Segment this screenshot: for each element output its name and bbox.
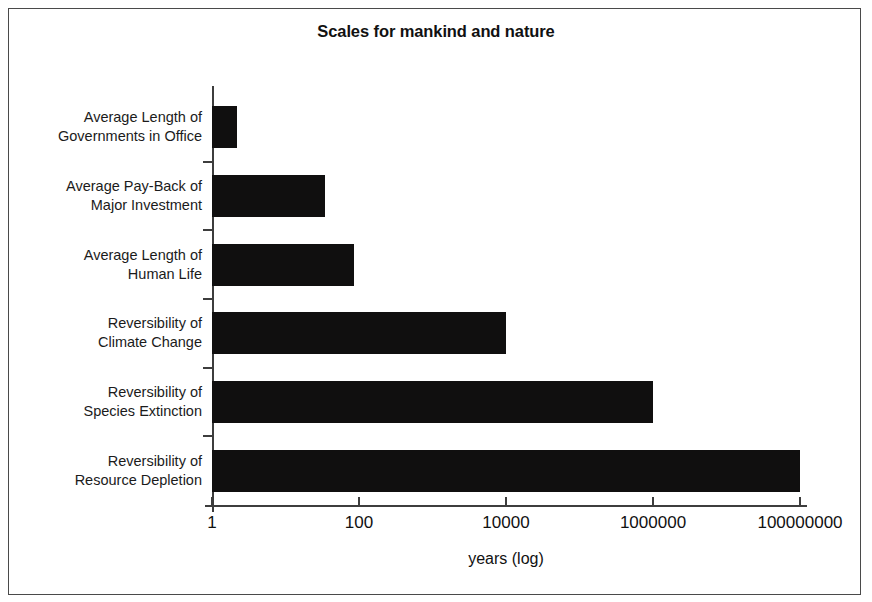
chart-figure: Scales for mankind and nature Average Le… bbox=[0, 0, 872, 602]
category-label-line1: Reversibility of bbox=[108, 384, 202, 400]
category-label-line1: Average Length of bbox=[84, 109, 202, 125]
category-label-line2: Governments in Office bbox=[8, 127, 202, 146]
category-label-line2: Resource Depletion bbox=[8, 471, 202, 490]
y-tick-mark bbox=[203, 367, 212, 369]
category-label-line2: Major Investment bbox=[8, 196, 202, 215]
x-tick-label: 100000000 bbox=[757, 513, 842, 533]
y-axis-line bbox=[212, 86, 214, 512]
category-label: Reversibility ofClimate Change bbox=[8, 314, 202, 352]
bar bbox=[212, 381, 653, 423]
bar bbox=[212, 450, 800, 492]
bar bbox=[212, 244, 354, 286]
x-tick-label: 1000000 bbox=[620, 513, 686, 533]
chart-title: Scales for mankind and nature bbox=[0, 22, 872, 41]
x-axis-title: years (log) bbox=[212, 550, 800, 568]
bar bbox=[212, 106, 237, 148]
x-tick-label: 100 bbox=[345, 513, 373, 533]
category-label: Average Length ofGovernments in Office bbox=[8, 108, 202, 146]
x-tick-label: 10000 bbox=[482, 513, 529, 533]
category-label-line2: Climate Change bbox=[8, 333, 202, 352]
x-tick-mark bbox=[652, 497, 654, 506]
category-label: Average Pay-Back ofMajor Investment bbox=[8, 177, 202, 215]
category-label: Reversibility ofResource Depletion bbox=[8, 452, 202, 490]
category-label-line1: Average Pay-Back of bbox=[66, 178, 202, 194]
category-label-line1: Reversibility of bbox=[108, 453, 202, 469]
category-label: Reversibility ofSpecies Extinction bbox=[8, 383, 202, 421]
x-tick-mark bbox=[358, 497, 360, 506]
category-label-line1: Average Length of bbox=[84, 247, 202, 263]
x-tick-mark bbox=[505, 497, 507, 506]
x-tick-mark bbox=[799, 497, 801, 506]
bar bbox=[212, 175, 325, 217]
category-label-line1: Reversibility of bbox=[108, 315, 202, 331]
y-tick-mark bbox=[203, 298, 212, 300]
bar bbox=[212, 312, 506, 354]
x-tick-label: 1 bbox=[207, 513, 216, 533]
x-tick-mark bbox=[211, 497, 213, 506]
y-tick-mark bbox=[203, 161, 212, 163]
category-label-line2: Species Extinction bbox=[8, 402, 202, 421]
y-tick-mark bbox=[203, 229, 212, 231]
category-label-line2: Human Life bbox=[8, 265, 202, 284]
y-tick-mark bbox=[203, 435, 212, 437]
category-label: Average Length ofHuman Life bbox=[8, 246, 202, 284]
